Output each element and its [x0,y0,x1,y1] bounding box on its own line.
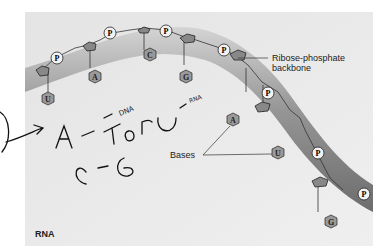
svg-text:P: P [164,27,169,36]
backbone-label: Ribose-phosphate backbone [272,53,345,73]
svg-text:P: P [362,190,367,199]
phosphate-6: P [312,147,324,159]
base-U-1: U [42,92,54,105]
base-G-1: G [180,70,192,83]
svg-text:A: A [230,116,236,125]
svg-text:G: G [328,218,334,227]
svg-text:P: P [108,29,113,38]
svg-text:G: G [183,73,189,82]
svg-text:P: P [316,149,321,158]
base-U-2: U [272,146,284,159]
phosphate-2: P [104,27,116,39]
diagram-canvas: U A C G A U G P P P P P P P [0,0,387,252]
bases-label: Bases [170,150,195,160]
phosphate-1: P [51,52,63,64]
base-A-1: A [89,70,101,83]
phosphate-7: P [358,188,370,200]
rna-diagram: U A C G A U G P P P P P P P [0,0,387,252]
svg-text:C: C [147,51,153,60]
hand-circle-arc [0,112,9,152]
phosphate-4: P [218,44,230,56]
svg-text:U: U [45,95,51,104]
base-A-2: A [227,113,239,126]
svg-text:P: P [222,46,227,55]
svg-text:U: U [275,149,281,158]
phosphate-3: P [160,25,172,37]
rna-title-label: RNA [35,229,55,239]
base-C: C [144,48,156,61]
svg-text:P: P [266,89,271,98]
svg-text:P: P [55,54,60,63]
base-G-2: G [325,215,337,228]
phosphate-5: P [262,87,274,99]
svg-text:A: A [92,73,98,82]
